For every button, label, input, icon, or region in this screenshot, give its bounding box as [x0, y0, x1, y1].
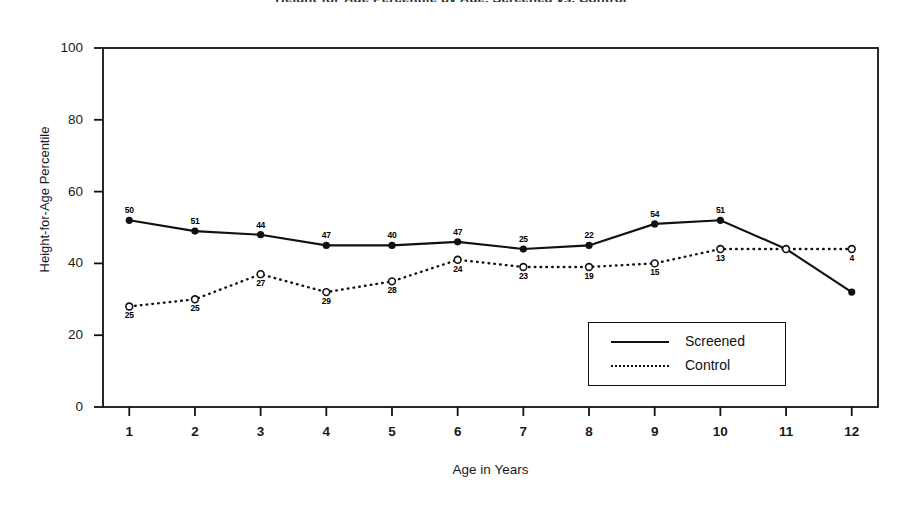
- data-point-control: [323, 289, 330, 296]
- data-point-screened: [323, 242, 330, 249]
- point-value-label: 22: [576, 231, 602, 240]
- x-tick-label: 1: [109, 425, 149, 439]
- x-tick-label: 12: [832, 425, 872, 439]
- x-tick-label: 10: [700, 425, 740, 439]
- data-point-screened: [848, 289, 855, 296]
- legend-item-screened: Screened: [589, 331, 785, 353]
- point-value-label: 47: [313, 231, 339, 240]
- y-axis-ticks: [94, 48, 103, 407]
- x-tick-label: 5: [372, 425, 412, 439]
- data-point-control: [257, 271, 264, 278]
- y-tick-label: 80: [37, 113, 83, 127]
- point-value-label: 23: [510, 272, 536, 281]
- point-value-label: 24: [445, 265, 471, 274]
- data-point-control: [454, 256, 461, 263]
- point-value-label: 25: [182, 304, 208, 313]
- legend-label-screened: Screened: [685, 333, 745, 349]
- point-value-label: 50: [116, 206, 142, 215]
- point-value-label: 15: [642, 268, 668, 277]
- data-point-control: [651, 260, 658, 267]
- point-value-label: 29: [313, 297, 339, 306]
- data-point-control: [586, 264, 593, 271]
- point-value-label: 51: [182, 217, 208, 226]
- x-tick-label: 2: [175, 425, 215, 439]
- x-tick-label: 9: [635, 425, 675, 439]
- data-point-screened: [126, 217, 133, 224]
- point-value-label: 40: [379, 231, 405, 240]
- data-point-screened: [454, 238, 461, 245]
- point-value-label: 51: [707, 206, 733, 215]
- series-line-screened: [129, 220, 851, 292]
- point-value-label: 44: [248, 221, 274, 230]
- point-value-label: 47: [445, 228, 471, 237]
- y-tick-label: 100: [37, 41, 83, 55]
- point-value-label: 25: [116, 311, 142, 320]
- x-tick-label: 7: [503, 425, 543, 439]
- chart-legend: Screened Control: [588, 322, 786, 386]
- data-point-screened: [717, 217, 724, 224]
- data-point-control: [520, 264, 527, 271]
- x-tick-label: 6: [438, 425, 478, 439]
- point-value-label: 54: [642, 210, 668, 219]
- point-value-label: 19: [576, 272, 602, 281]
- y-tick-label: 40: [37, 256, 83, 270]
- data-point-control: [126, 303, 133, 310]
- data-point-screened: [520, 245, 527, 252]
- x-tick-label: 8: [569, 425, 609, 439]
- data-point-screened: [585, 242, 592, 249]
- point-value-label: 4: [839, 254, 865, 263]
- legend-item-control: Control: [589, 355, 785, 377]
- chart-figure: Height-for-Age Percentile by Age, Screen…: [0, 0, 902, 509]
- x-tick-label: 4: [306, 425, 346, 439]
- point-value-label: 28: [379, 286, 405, 295]
- data-point-screened: [388, 242, 395, 249]
- data-point-screened: [191, 227, 198, 234]
- data-point-control: [848, 246, 855, 253]
- data-point-control: [783, 246, 790, 253]
- point-value-label: 13: [707, 254, 733, 263]
- data-point-screened: [257, 231, 264, 238]
- data-series-lines: [129, 220, 851, 306]
- x-axis-ticks: [129, 407, 851, 416]
- data-point-control: [192, 296, 199, 303]
- y-tick-label: 20: [37, 328, 83, 342]
- x-tick-label: 11: [766, 425, 806, 439]
- y-tick-label: 60: [37, 185, 83, 199]
- legend-swatch-solid: [611, 341, 669, 343]
- point-value-label: 27: [248, 279, 274, 288]
- legend-swatch-dotted: [611, 365, 669, 367]
- point-value-label: 25: [510, 235, 536, 244]
- data-point-control: [389, 278, 396, 285]
- series-line-control: [129, 249, 851, 307]
- legend-label-control: Control: [685, 357, 730, 373]
- x-tick-label: 3: [241, 425, 281, 439]
- data-point-control: [717, 246, 724, 253]
- data-point-screened: [651, 220, 658, 227]
- y-tick-label: 0: [37, 400, 83, 414]
